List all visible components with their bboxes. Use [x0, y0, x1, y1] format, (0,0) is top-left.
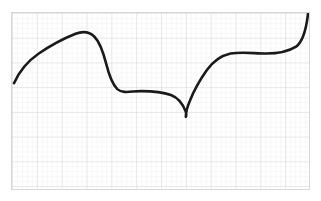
grid-lines: [12, 13, 309, 189]
graph-paper-frame: [11, 12, 310, 190]
screenshot-canvas: [0, 0, 321, 201]
